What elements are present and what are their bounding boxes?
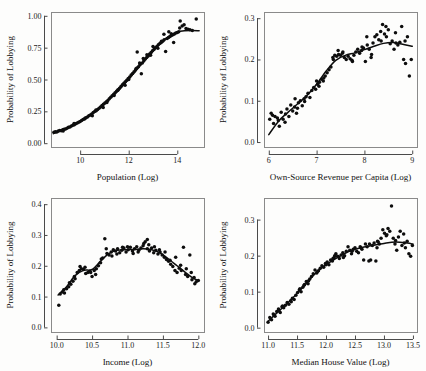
data-point — [121, 246, 125, 250]
data-point — [190, 271, 194, 275]
data-point — [400, 25, 404, 29]
plot-area: 67890.00.10.20.3Own-Source Revenue per C… — [213, 0, 426, 186]
data-point — [142, 242, 146, 246]
data-point — [272, 122, 276, 126]
data-point — [381, 228, 385, 232]
data-point — [115, 252, 119, 256]
data-point — [409, 255, 413, 259]
data-point — [341, 50, 345, 54]
scatter-points — [57, 237, 200, 307]
data-point — [404, 246, 408, 250]
data-point — [57, 303, 61, 307]
data-point — [375, 246, 379, 250]
data-point — [268, 118, 272, 122]
data-point — [366, 43, 370, 47]
x-tick-label: 10.0 — [50, 341, 64, 350]
y-tick-label: 0.50 — [28, 76, 42, 85]
data-point — [402, 58, 406, 62]
data-point — [379, 30, 383, 34]
data-point — [188, 253, 192, 257]
data-point — [153, 245, 157, 249]
data-point — [385, 233, 389, 237]
y-tick-label: 0.25 — [28, 107, 42, 116]
data-point — [383, 32, 387, 36]
data-point — [395, 248, 399, 252]
data-point — [90, 275, 94, 279]
y-axis-title: Probability of Lobbying — [5, 36, 15, 123]
data-point — [393, 242, 397, 246]
x-tick-label: 11.5 — [156, 341, 170, 350]
data-point — [105, 247, 109, 251]
data-point — [301, 104, 305, 108]
x-tick-label: 10 — [76, 156, 84, 165]
y-tick-label: 0.4 — [32, 200, 42, 209]
data-point — [346, 245, 350, 249]
x-tick-label: 12.0 — [319, 341, 333, 350]
data-point — [364, 60, 368, 64]
data-point — [163, 250, 167, 254]
y-axis-title: Probability of Lobbying — [5, 221, 15, 308]
data-point — [293, 97, 297, 101]
plot-frame — [265, 199, 418, 333]
data-point — [379, 237, 383, 241]
x-tick-label: 7 — [315, 156, 319, 165]
x-tick-label: 9 — [410, 156, 414, 165]
data-point — [369, 258, 373, 262]
data-point — [406, 35, 410, 39]
data-point — [271, 113, 275, 117]
plot-area: 1012140.000.250.500.751.00Population (Lo… — [0, 0, 213, 186]
x-tick-label: 14 — [173, 156, 181, 165]
x-axis-title: Own-Source Revenue per Capita (Log) — [270, 172, 411, 182]
y-tick-label: 0.75 — [28, 44, 42, 53]
y-tick-label: 0.0 — [245, 324, 255, 333]
data-point — [140, 72, 144, 76]
data-point — [135, 50, 139, 54]
data-point — [371, 41, 375, 45]
scatter-points — [52, 17, 198, 134]
data-point — [357, 251, 361, 255]
panel-top-right: 67890.00.10.20.3Own-Source Revenue per C… — [213, 0, 426, 186]
data-point — [390, 204, 394, 208]
data-point — [151, 45, 155, 49]
x-tick-label: 11.5 — [290, 341, 304, 350]
data-point — [146, 238, 150, 242]
panel-top-left: 1012140.000.250.500.751.00Population (Lo… — [0, 0, 213, 186]
data-point — [182, 246, 186, 250]
data-point — [392, 47, 396, 51]
data-point — [344, 58, 348, 62]
data-point — [162, 33, 166, 37]
x-axis-title: Median House Value (Log) — [291, 357, 389, 367]
data-point — [283, 120, 287, 124]
data-point — [403, 39, 407, 43]
x-tick-label: 12.0 — [191, 341, 205, 350]
y-tick-label: 0.2 — [245, 55, 255, 64]
data-point — [135, 245, 139, 249]
x-axis-title: Population (Log) — [97, 172, 159, 182]
x-tick-label: 10.5 — [85, 341, 99, 350]
data-point — [387, 28, 391, 32]
plot-area: 11.011.512.012.513.013.50.00.10.20.3Medi… — [213, 186, 426, 371]
data-point — [158, 248, 162, 252]
data-point — [408, 74, 412, 78]
y-tick-label: 0.3 — [245, 14, 255, 23]
x-tick-label: 12 — [125, 156, 133, 165]
data-point — [384, 25, 388, 29]
panel-bottom-right: 11.011.512.012.513.013.50.00.10.20.3Medi… — [213, 186, 426, 371]
data-point — [360, 45, 364, 49]
x-tick-label: 13.5 — [406, 341, 420, 350]
data-point — [172, 41, 176, 45]
data-point — [308, 96, 312, 100]
data-point — [379, 39, 383, 43]
y-axis-title: Probability of Lobbying — [218, 221, 228, 308]
data-point — [289, 103, 293, 107]
data-point — [296, 106, 300, 110]
data-point — [63, 291, 67, 295]
data-point — [171, 265, 175, 269]
data-point — [398, 229, 402, 233]
data-point — [175, 271, 179, 275]
data-point — [342, 256, 346, 260]
panel-bottom-left: 10.010.511.011.512.00.00.10.20.30.4Incom… — [0, 186, 213, 371]
x-tick-label: 6 — [267, 156, 271, 165]
data-point — [147, 243, 151, 247]
data-point — [126, 245, 130, 249]
